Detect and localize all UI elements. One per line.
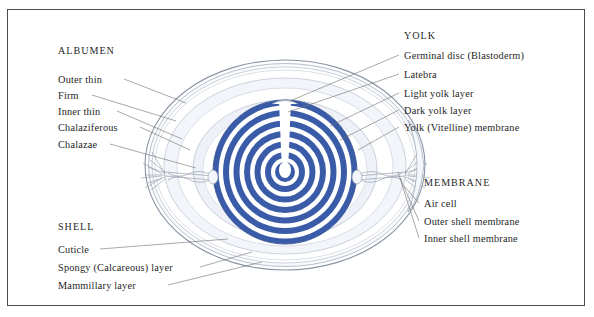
label-yolk-vitelline-membrane: Yolk (Vitelline) membrane <box>404 123 519 133</box>
label-outer-thin: Outer thin <box>58 75 102 85</box>
label-firm: Firm <box>58 91 79 101</box>
label-germinal-disc: Germinal disc (Blastoderm) <box>404 51 524 61</box>
label-light-yolk-layer: Light yolk layer <box>404 89 474 99</box>
label-inner-shell-membrane: Inner shell membrane <box>424 234 518 244</box>
group-heading-yolk: YOLK <box>404 31 436 41</box>
label-cuticle: Cuticle <box>58 245 89 255</box>
group-heading-shell: SHELL <box>58 222 94 232</box>
label-inner-thin: Inner thin <box>58 107 100 117</box>
label-mammillary-layer: Mammillary layer <box>58 281 136 291</box>
label-outer-shell-membrane: Outer shell membrane <box>424 217 520 227</box>
yolk-concentric-rings <box>213 100 357 244</box>
label-chalaziferous: Chalaziferous <box>58 123 118 133</box>
latebra-bulb <box>279 162 291 178</box>
label-chalazae: Chalazae <box>58 140 97 150</box>
egg-diagram-canvas: ALBUMEN Outer thin Firm Inner thin Chala… <box>0 0 594 317</box>
label-dark-yolk-layer: Dark yolk layer <box>404 106 472 116</box>
group-heading-albumen: ALBUMEN <box>58 46 115 56</box>
label-spongy-calcareous-layer: Spongy (Calcareous) layer <box>58 263 173 273</box>
group-heading-membrane: MEMBRANE <box>424 178 490 188</box>
label-latebra: Latebra <box>404 70 437 80</box>
label-air-cell: Air cell <box>424 199 457 209</box>
